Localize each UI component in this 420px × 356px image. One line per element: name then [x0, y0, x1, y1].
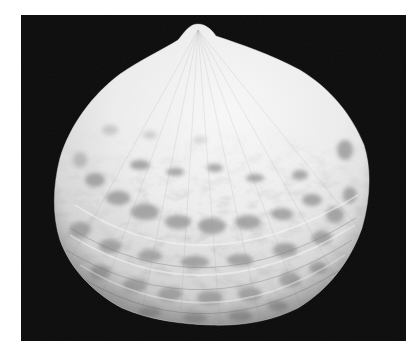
shell-illustration: [21, 15, 406, 341]
shell-photograph: Photograph of a rounded clam shell with …: [21, 15, 406, 341]
